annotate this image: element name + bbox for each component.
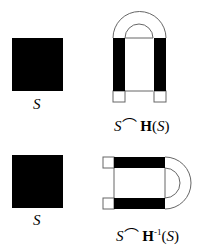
intersection-symbol: ⌒ — [124, 228, 139, 244]
set-label-top: S — [33, 96, 41, 113]
formula-arg: S — [166, 228, 174, 244]
set-s-square-top — [12, 38, 63, 91]
formula-label-top: S⌒ H(S) — [114, 114, 169, 135]
paren-close: ) — [164, 118, 169, 134]
intersection-bar-bottom — [114, 198, 165, 209]
set-label-bottom: S — [33, 212, 41, 229]
map-operator: H — [142, 228, 154, 244]
intersection-bar-right — [154, 38, 166, 91]
intersection-bar-left — [113, 38, 125, 91]
formula-left-set: S — [116, 228, 124, 244]
intersection-bar-top — [114, 157, 165, 168]
map-operator: H — [140, 118, 152, 134]
paren-close: ) — [174, 228, 179, 244]
set-s-square-bottom — [12, 155, 63, 208]
intersection-symbol: ⌒ — [122, 118, 137, 134]
formula-label-bottom: S⌒ H-1(S) — [116, 224, 179, 245]
formula-left-set: S — [114, 118, 122, 134]
